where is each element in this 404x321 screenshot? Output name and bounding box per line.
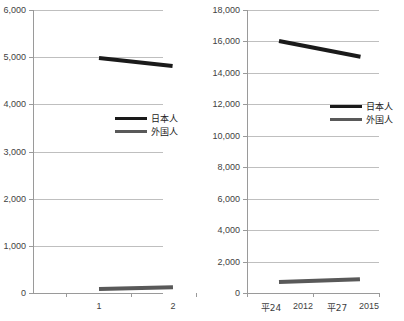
series-line xyxy=(279,277,360,284)
gridline xyxy=(33,104,163,105)
chart-left: 日本人外国人 01,0002,0003,0004,0005,0006,00012 xyxy=(0,0,202,321)
gridline xyxy=(247,199,379,200)
legend-label: 外国人 xyxy=(366,113,393,126)
y-axis-label: 16,000 xyxy=(212,36,240,46)
series-line xyxy=(99,285,173,291)
legend-item: 日本人 xyxy=(330,100,393,113)
x-axis-tick xyxy=(379,293,380,297)
legend-item: 外国人 xyxy=(330,113,393,126)
y-axis-label: 18,000 xyxy=(212,5,240,15)
y-axis-label: 1,000 xyxy=(3,241,26,251)
x-axis-label: 2 xyxy=(170,301,175,311)
x-axis-tick xyxy=(131,293,132,297)
gridline xyxy=(247,73,379,74)
plot-area-left xyxy=(33,10,163,293)
y-axis-label: 0 xyxy=(235,288,240,298)
gridline xyxy=(247,41,379,42)
x-axis-label: 平27 xyxy=(327,301,347,314)
chart-right: 日本人外国人 02,0004,0006,0008,00010,00012,000… xyxy=(202,0,404,321)
x-axis-label: 2015 xyxy=(359,301,379,311)
y-axis-label: 5,000 xyxy=(3,52,26,62)
x-axis-label: 2012 xyxy=(293,301,313,311)
gridline xyxy=(247,230,379,231)
y-axis-label: 2,000 xyxy=(217,257,240,267)
y-axis-label: 0 xyxy=(21,288,26,298)
legend-left: 日本人外国人 xyxy=(115,112,178,138)
y-axis-line xyxy=(247,10,248,293)
x-axis-label: 1 xyxy=(96,301,101,311)
y-axis-label: 6,000 xyxy=(217,194,240,204)
legend-swatch xyxy=(115,130,147,133)
gridline xyxy=(33,152,163,153)
y-axis-label: 12,000 xyxy=(212,99,240,109)
y-axis-label: 4,000 xyxy=(217,225,240,235)
legend-right: 日本人外国人 xyxy=(330,100,393,126)
gridline xyxy=(33,246,163,247)
legend-swatch xyxy=(330,105,362,108)
gridline xyxy=(247,10,379,11)
y-axis-label: 2,000 xyxy=(3,194,26,204)
x-axis-tick xyxy=(196,293,197,297)
gridline xyxy=(33,10,163,11)
y-axis-label: 14,000 xyxy=(212,68,240,78)
chart-page: 日本人外国人 01,0002,0003,0004,0005,0006,00012… xyxy=(0,0,404,321)
x-axis-line xyxy=(33,293,163,294)
y-axis-label: 4,000 xyxy=(3,99,26,109)
y-axis-label: 10,000 xyxy=(212,131,240,141)
y-axis-tick xyxy=(29,293,33,294)
legend-swatch xyxy=(330,118,362,121)
gridline xyxy=(33,199,163,200)
legend-label: 日本人 xyxy=(366,100,393,113)
legend-item: 外国人 xyxy=(115,125,178,138)
gridline xyxy=(247,262,379,263)
gridline xyxy=(247,167,379,168)
gridline xyxy=(247,136,379,137)
legend-label: 日本人 xyxy=(151,112,178,125)
x-axis-tick xyxy=(247,293,248,297)
y-axis-label: 6,000 xyxy=(3,5,26,15)
legend-label: 外国人 xyxy=(151,125,178,138)
legend-swatch xyxy=(115,117,147,120)
x-axis-label: 平24 xyxy=(261,301,281,314)
y-axis-line xyxy=(33,10,34,293)
x-axis-tick xyxy=(313,293,314,297)
plot-area-right xyxy=(247,10,379,293)
x-axis-tick xyxy=(66,293,67,297)
y-axis-label: 3,000 xyxy=(3,147,26,157)
y-axis-label: 8,000 xyxy=(217,162,240,172)
legend-item: 日本人 xyxy=(115,112,178,125)
